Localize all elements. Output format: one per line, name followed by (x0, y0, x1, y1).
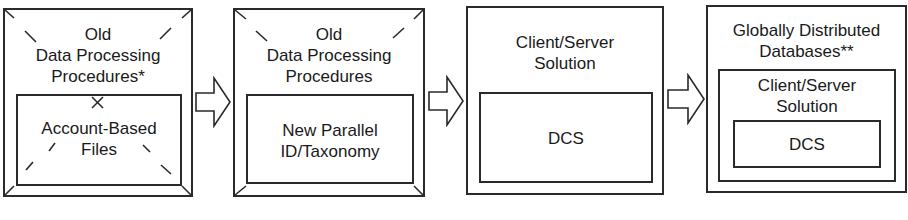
stage-3-inner-box: DCS (479, 92, 653, 183)
stage-4-outer-box: Globally Distributed Databases** Client/… (706, 5, 907, 193)
stage-4-middle-box: Client/Server Solution DCS (718, 69, 896, 182)
stage-2-outer-box: Old Data Processing Procedures New Paral… (233, 8, 425, 197)
stage-1-inner-box: Account-Based Files (16, 94, 182, 186)
stage-1-outer-box: Old Data Processing Procedures* Account-… (3, 8, 193, 197)
stage-1-inner-label: Account-Based Files (18, 118, 180, 160)
stage-2-inner-box: New Parallel ID/Taxonomy (246, 94, 414, 184)
stage-4-outer-label: Globally Distributed Databases** (708, 20, 905, 62)
stage-4-inner-label: DCS (735, 134, 879, 155)
stage-3-outer-label: Client/Server Solution (468, 32, 662, 74)
right-arrow-icon (427, 75, 465, 127)
stage-1-outer-label: Old Data Processing Procedures* (5, 24, 191, 87)
stage-3-outer-box: Client/Server Solution DCS (466, 6, 664, 195)
right-arrow-icon (666, 73, 706, 125)
stage-3-inner-label: DCS (481, 128, 651, 149)
stage-4-inner-box: DCS (733, 120, 881, 168)
stage-4-middle-label: Client/Server Solution (720, 75, 894, 117)
right-arrow-icon (194, 76, 232, 128)
stage-2-inner-label: New Parallel ID/Taxonomy (248, 120, 412, 162)
stage-2-outer-label: Old Data Processing Procedures (235, 24, 423, 87)
